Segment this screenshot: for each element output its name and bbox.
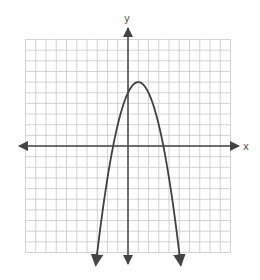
coordinate-plane: x y bbox=[0, 0, 260, 280]
y-axis-label: y bbox=[124, 13, 130, 24]
x-axis-label: x bbox=[243, 141, 249, 152]
axes: x y bbox=[19, 13, 249, 264]
